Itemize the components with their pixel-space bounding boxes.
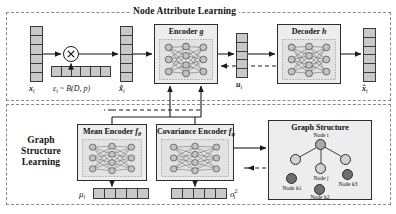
elementwise-product-operator [63,46,79,62]
label-vector-xi: xi [29,84,35,94]
module-mean-encoder-name: Mean Encoder [83,127,133,136]
label-vector-reconstructed-xi: x̂i [362,84,368,94]
vector-cell [205,189,216,198]
vector-input-xi [30,26,43,82]
panel-graph-structure: Graph Structure Node i Node j Node k1 No… [268,120,372,200]
vector-cell [216,189,226,198]
label-ui-subscript: i [240,84,242,90]
module-mean-encoder-symbol-sub: θ [138,131,141,137]
vector-cell [237,52,247,61]
graph-node-i [315,139,326,150]
vector-cell [237,69,247,77]
vector-cell [138,189,148,198]
vector-cell [364,64,375,73]
graph-node-neighbor-right [340,154,351,165]
vector-cell [52,67,62,76]
module-mean-encoder: Mean Encoder fθ [77,124,147,181]
module-mean-encoder-caption: Mean Encoder fθ [78,127,146,137]
label-mask-distribution: εi ~ B(D, p) [53,84,90,94]
vector-masked-xi [120,26,133,82]
vector-cell [31,45,42,54]
graph-node-neighbor-left [290,154,301,165]
vector-cell [31,73,42,81]
vector-reconstructed-xi [363,28,376,82]
vector-cell [172,189,183,198]
module-covariance-encoder-symbol-sub: φ [232,131,236,137]
module-encoder-network-graphic [159,39,213,80]
vector-cell [237,43,247,52]
vector-cell [194,189,205,198]
label-vector-masked-xi: x̃i [119,84,125,94]
module-covariance-encoder-name: Covariance Encoder [157,127,227,136]
vector-cell [121,64,132,73]
graph-node-j [315,163,326,174]
graph-node-k1 [286,173,297,184]
vector-cell [101,67,110,76]
vector-cell [91,67,101,76]
vector-mu-i [93,188,149,199]
vector-cell [364,47,375,56]
panel-title-line-1: Graph [12,135,70,146]
panel-title-line-2: Structure [12,146,70,157]
vector-cell [364,73,375,81]
label-vector-mu-i: μi [79,189,85,200]
vector-cell [31,55,42,64]
vector-mask-epsilon [51,66,111,77]
vector-cell [121,45,132,54]
module-encoder-caption: Encoder g [155,27,217,36]
label-epsilon-subscript: i [56,88,58,94]
module-decoder-network-graphic [282,39,336,80]
vector-cell [121,55,132,64]
vector-cell [31,27,42,36]
graph-node-k2-label: Node k2 [305,194,335,200]
module-decoder: Decoder h [277,24,341,84]
graph-node-j-label: Node j [307,175,335,181]
vector-sigma-squared-i [171,188,227,199]
vector-cell [81,67,91,76]
label-masked-xi-subscript: i [123,88,125,94]
module-mean-encoder-network-graphic [82,139,142,177]
graph-node-i-label: Node i [307,132,335,138]
vector-cell [121,73,132,81]
graph-node-k3 [342,169,353,180]
vector-cell [121,36,132,45]
label-mu-subscript: i [84,194,86,200]
module-covariance-encoder: Covariance Encoder fφ [156,124,234,181]
module-encoder: Encoder g [154,24,218,84]
label-sigma-subscript: i [233,194,235,200]
vector-cell [237,60,247,69]
vector-cell [62,67,72,76]
vector-cell [105,189,116,198]
vector-cell [237,34,247,43]
vector-cell [127,189,138,198]
vector-cell [31,36,42,45]
module-encoder-symbol: g [199,27,203,36]
label-xhat-subscript: i [366,88,368,94]
label-vector-sigma-squared-i: σ2i [230,188,235,200]
module-decoder-name: Decoder [292,27,320,36]
module-covariance-encoder-caption: Covariance Encoder fφ [157,127,233,137]
module-decoder-caption: Decoder h [278,27,340,36]
module-covariance-encoder-network-graphic [161,139,229,177]
vector-cell [31,64,42,73]
module-decoder-symbol: h [322,27,326,36]
label-xi-subscript: i [33,88,35,94]
vector-cell [121,27,132,36]
vector-cell [94,189,105,198]
vector-cell [116,189,127,198]
vector-cell [364,29,375,38]
panel-title-node-attribute-learning: Node Attribute Learning [130,6,239,16]
diagram-canvas: Node Attribute Learning Graph Structure … [0,0,396,214]
panel-title-graph-structure-learning: Graph Structure Learning [12,135,70,168]
graph-node-k1-label: Node k1 [277,185,307,191]
vector-cell [364,55,375,64]
vector-cell [183,189,194,198]
vector-cell [72,67,82,76]
vector-latent-ui [236,33,248,78]
label-epsilon-distribution: ~ B(D, p) [60,84,90,93]
vector-cell [364,38,375,47]
panel-title-line-3: Learning [12,157,70,168]
graph-node-k3-label: Node k3 [333,181,363,187]
label-vector-ui: ui [236,80,242,90]
module-encoder-name: Encoder [169,27,198,36]
